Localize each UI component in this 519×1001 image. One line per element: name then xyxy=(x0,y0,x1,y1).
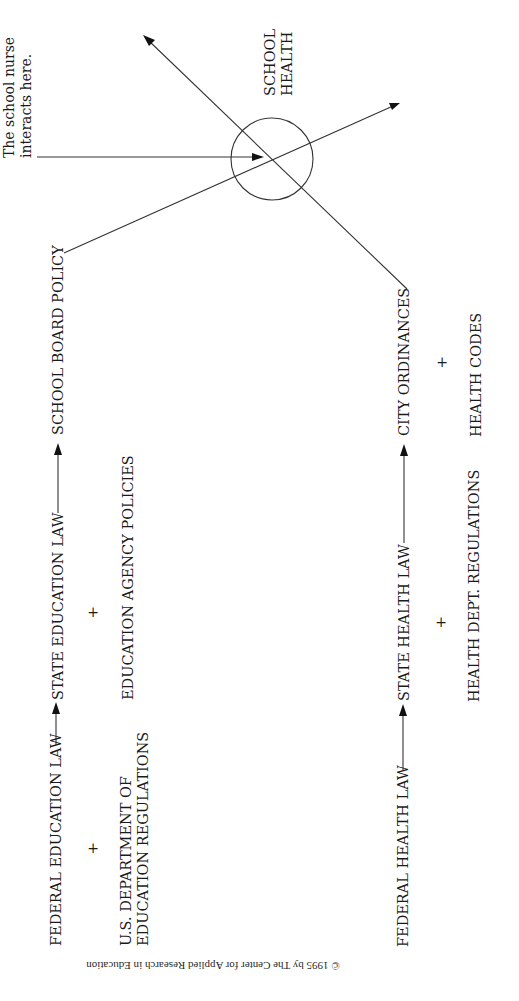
plus-sign: + xyxy=(435,614,447,630)
arrow-state-to-school-board xyxy=(54,443,62,513)
health-dept-regulations-label: HEALTH DEPT. REGULATIONS xyxy=(466,470,482,702)
copyright-notice: © 1995 by The Center for Applied Researc… xyxy=(86,960,340,972)
arrow-state-to-city xyxy=(400,444,408,543)
education-agency-policies-label: EDUCATION AGENCY POLICIES xyxy=(120,455,136,700)
arrowhead-icon xyxy=(399,704,407,716)
school-health-diagram: SCHOOL HEALTH The school nurse interacts… xyxy=(0,0,519,1001)
us-dept-education-label-line1: U.S. DEPARTMENT OF xyxy=(118,776,134,946)
health-codes-label: HEALTH CODES xyxy=(468,313,484,437)
school-health-label-line1: SCHOOL xyxy=(262,29,278,96)
arrow-federal-to-state-health xyxy=(399,704,407,770)
arrowhead-icon xyxy=(400,444,408,456)
school-board-policy-label: SCHOOL BOARD POLICY xyxy=(50,245,66,435)
state-health-law-label: STATE HEALTH LAW xyxy=(396,544,412,701)
us-dept-education-label-line2: EDUCATION REGULATIONS xyxy=(135,732,151,946)
arrowhead-icon xyxy=(252,153,264,161)
nurse-annotation-line1: The school nurse xyxy=(1,37,17,158)
state-education-law-label: STATE EDUCATION LAW xyxy=(50,512,66,700)
federal-health-law-label: FEDERAL HEALTH LAW xyxy=(395,765,411,947)
school-health-label-line2: HEALTH xyxy=(279,32,295,96)
city-ordinances-label: CITY ORDINANCES xyxy=(396,288,412,436)
arrowhead-icon xyxy=(54,443,62,455)
arrowhead-icon xyxy=(52,702,60,714)
nurse-arrow xyxy=(37,153,264,161)
plus-sign: + xyxy=(436,354,448,370)
federal-education-law-label: FEDERAL EDUCATION LAW xyxy=(48,733,64,946)
nurse-annotation-line2: interacts here. xyxy=(18,54,34,158)
plus-sign: + xyxy=(87,604,99,620)
education-line-arrow xyxy=(64,103,400,253)
arrowhead-icon xyxy=(389,103,400,110)
plus-sign: + xyxy=(87,840,99,856)
